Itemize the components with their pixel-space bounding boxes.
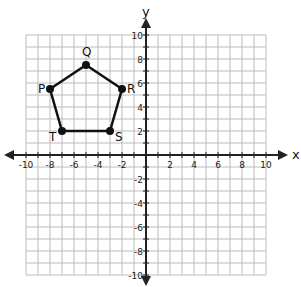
vertex-label-Q: Q [82, 45, 91, 59]
y-tick-label: 8 [137, 55, 143, 65]
x-tick-label: -8 [46, 160, 55, 170]
x-tick-label: 4 [191, 160, 197, 170]
x-tick-label: 10 [260, 160, 272, 170]
x-tick-label: -4 [94, 160, 103, 170]
y-tick-label: 10 [132, 31, 144, 41]
y-tick-label: -10 [128, 271, 143, 281]
x-tick-label: 6 [215, 160, 221, 170]
vertex-point-T [58, 127, 66, 135]
vertex-label-T: T [48, 130, 57, 144]
y-tick-label: 4 [137, 103, 143, 113]
y-axis-label: y [142, 4, 150, 19]
y-tick-label: -8 [134, 247, 143, 257]
x-tick-label: 2 [167, 160, 173, 170]
x-axis-left-arrow-icon [4, 150, 14, 160]
y-tick-label: 2 [137, 127, 143, 137]
vertex-point-Q [82, 61, 90, 69]
x-tick-label: -6 [70, 160, 79, 170]
axes: xy [4, 4, 300, 286]
x-tick-label: 8 [239, 160, 245, 170]
x-tick-label: -2 [118, 160, 127, 170]
y-tick-label: 6 [137, 79, 143, 89]
coordinate-plane: xy -10-8-6-4-2246810108642-2-4-6-8-10 PQ… [0, 0, 301, 287]
y-tick-label: -6 [134, 223, 143, 233]
vertex-label-S: S [115, 130, 123, 144]
x-tick-label: -10 [19, 160, 34, 170]
vertex-label-R: R [127, 82, 135, 96]
y-tick-label: -2 [134, 175, 143, 185]
vertex-label-P: P [38, 82, 45, 96]
x-axis-right-arrow-icon [278, 150, 288, 160]
x-axis-label: x [292, 147, 300, 162]
y-axis-up-arrow-icon [141, 18, 151, 28]
y-tick-label: -4 [134, 199, 143, 209]
vertex-point-S [106, 127, 114, 135]
vertex-point-R [118, 85, 126, 93]
vertex-point-P [46, 85, 54, 93]
